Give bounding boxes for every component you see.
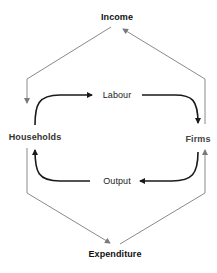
output-to-households-arrow [35,150,90,181]
income-to-households-arrow [27,27,111,103]
households-to-expenditure-arrow [27,148,110,243]
households-to-labour-arrow [35,95,92,125]
labour-to-firms-arrow [142,95,198,123]
labour-label: Labour [103,90,132,100]
firms-label: Firms [185,134,210,144]
households-label: Households [9,132,62,142]
income-label: Income [101,12,133,22]
output-label: Output [103,176,131,186]
firms-to-output-arrow [140,152,198,181]
firms-to-income-arrow [123,29,205,124]
expenditure-label: Expenditure [88,249,141,259]
expenditure-to-firms-arrow [120,150,205,244]
